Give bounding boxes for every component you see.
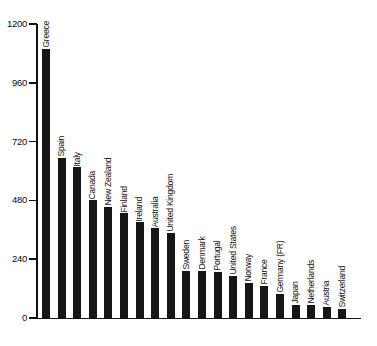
bar-category-label: Sweden xyxy=(182,240,191,270)
bar xyxy=(104,207,112,318)
bar-category-label: France xyxy=(260,260,269,285)
bar xyxy=(323,307,331,318)
bar-column: France xyxy=(260,24,268,318)
bar-category-label: Italy xyxy=(73,152,82,167)
bar-category-label: Portugal xyxy=(214,241,223,271)
y-axis-tick-label: 1200 xyxy=(0,19,27,29)
bar-category-label: Ireland xyxy=(136,197,145,222)
bar xyxy=(229,276,237,318)
bar xyxy=(136,222,144,318)
bar xyxy=(58,158,66,318)
bar xyxy=(338,309,346,318)
bar-category-label: Spain xyxy=(58,136,67,157)
bar-category-label: United Kingdom xyxy=(167,174,176,232)
bar-chart: 12009607204802400 GreeceSpainItalyCanada… xyxy=(0,0,377,346)
bar xyxy=(42,49,50,319)
bar-category-label: Norway xyxy=(245,254,254,282)
bar xyxy=(120,213,128,318)
bar xyxy=(214,272,222,318)
bar-column: Norway xyxy=(245,24,253,318)
bar xyxy=(307,305,315,318)
bar-column: Netherlands xyxy=(307,24,315,318)
bar-column: Canada xyxy=(89,24,97,318)
y-axis-tick-label: 480 xyxy=(0,195,27,205)
y-axis-tick-label: 720 xyxy=(0,137,27,147)
bar-column: Italy xyxy=(73,24,81,318)
bar xyxy=(292,305,300,318)
bar xyxy=(89,200,97,318)
bar-column: Greece xyxy=(42,24,50,318)
bar xyxy=(260,286,268,318)
y-axis-tick-label: 960 xyxy=(0,78,27,88)
bar xyxy=(167,233,175,318)
bar-column: New Zealand xyxy=(104,24,112,318)
y-axis-tick-label: 0 xyxy=(0,313,27,323)
bar xyxy=(198,271,206,318)
plot-area: GreeceSpainItalyCanadaNew ZealandFinland… xyxy=(37,24,362,318)
bar-column: Australia xyxy=(151,24,159,318)
bar-category-label: New Zealand xyxy=(104,158,113,206)
bar-column: United States xyxy=(229,24,237,318)
bar-column: Spain xyxy=(58,24,66,318)
bar-column: Finland xyxy=(120,24,128,318)
bar-column: United Kingdom xyxy=(167,24,175,318)
bar-column: Germany (FR) xyxy=(276,24,284,318)
bar-category-label: Austria xyxy=(323,281,332,306)
bar-column: Denmark xyxy=(198,24,206,318)
bar-category-label: Netherlands xyxy=(307,260,316,304)
bar xyxy=(182,271,190,318)
bar xyxy=(151,228,159,318)
bar-category-label: Canada xyxy=(89,171,98,200)
bar-category-label: United States xyxy=(229,227,238,275)
bar xyxy=(276,294,284,318)
bar-column: Portugal xyxy=(214,24,222,318)
bar-category-label: Australia xyxy=(151,196,160,227)
y-axis-tick-label: 240 xyxy=(0,254,27,264)
bar-category-label: Japan xyxy=(292,282,301,304)
bar-category-label: Greece xyxy=(42,21,51,48)
bar-column: Austria xyxy=(323,24,331,318)
bar xyxy=(245,283,253,318)
bar-column: Ireland xyxy=(136,24,144,318)
bar-column: Sweden xyxy=(182,24,190,318)
bar-category-label: Germany (FR) xyxy=(276,241,285,293)
bar-category-label: Switzerland xyxy=(338,266,347,308)
bar xyxy=(73,167,81,318)
bar-category-label: Denmark xyxy=(198,237,207,270)
bar-column: Switzerland xyxy=(338,24,346,318)
bar-category-label: Finland xyxy=(120,186,129,212)
bar-column: Japan xyxy=(292,24,300,318)
